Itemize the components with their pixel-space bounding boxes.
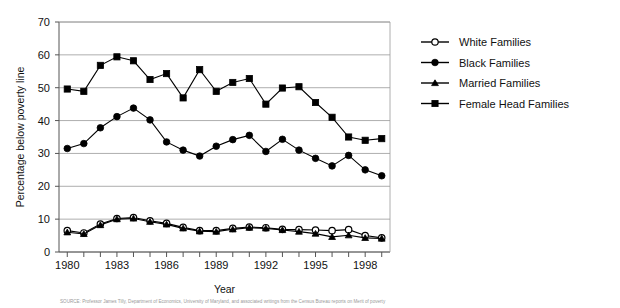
datapoint-black-families-1995 bbox=[312, 155, 319, 162]
datapoint-black-families-1987 bbox=[180, 147, 187, 154]
datapoint-female-head-families-1986 bbox=[163, 70, 169, 76]
datapoint-female-head-families-1985 bbox=[147, 76, 153, 82]
datapoint-female-head-families-1984 bbox=[130, 58, 136, 64]
datapoint-black-families-1981 bbox=[81, 140, 88, 147]
datapoint-female-head-families-1992 bbox=[263, 101, 269, 107]
datapoint-female-head-families-1995 bbox=[312, 99, 318, 105]
datapoint-female-head-families-1997 bbox=[346, 134, 352, 140]
legend-label-1: Black Families bbox=[459, 57, 530, 69]
y-tick-label-10: 10 bbox=[38, 213, 50, 225]
poverty-line-chart-figure: 0102030405060701980198319861989199219951… bbox=[0, 0, 620, 308]
x-tick-label-1992: 1992 bbox=[254, 259, 278, 271]
legend-label-0: White Families bbox=[459, 36, 532, 48]
datapoint-female-head-families-1991 bbox=[246, 75, 252, 81]
y-tick-label-30: 30 bbox=[38, 147, 50, 159]
source-caption: SOURCE: Professor James Tilly, Departmen… bbox=[60, 299, 386, 304]
y-tick-label-60: 60 bbox=[38, 49, 50, 61]
series-black-families bbox=[64, 105, 385, 179]
legend-item-female-head-families[interactable]: Female Head Families bbox=[421, 98, 570, 110]
datapoint-female-head-families-1980 bbox=[64, 86, 70, 92]
datapoint-black-families-1998 bbox=[362, 167, 369, 174]
datapoint-black-families-1999 bbox=[378, 172, 385, 179]
y-tick-label-70: 70 bbox=[38, 16, 50, 28]
datapoint-female-head-families-1999 bbox=[379, 136, 385, 142]
datapoint-black-families-1996 bbox=[329, 163, 336, 170]
y-tick-label-20: 20 bbox=[38, 180, 50, 192]
datapoint-black-families-1993 bbox=[279, 136, 286, 143]
series-line-female-head-families bbox=[67, 57, 381, 140]
datapoint-black-families-1980 bbox=[64, 145, 71, 152]
datapoint-black-families-1988 bbox=[196, 153, 203, 160]
datapoint-female-head-families-1989 bbox=[213, 88, 219, 94]
x-tick-label-1980: 1980 bbox=[55, 259, 79, 271]
datapoint-female-head-families-1988 bbox=[197, 67, 203, 73]
datapoint-black-families-1994 bbox=[296, 147, 303, 154]
datapoint-black-families-1991 bbox=[246, 132, 253, 139]
datapoint-black-families-1982 bbox=[97, 125, 104, 132]
x-tick-label-1986: 1986 bbox=[154, 259, 178, 271]
legend-marker-filled-circle bbox=[432, 59, 439, 66]
series-white-families bbox=[64, 214, 385, 241]
legend-label-3: Female Head Families bbox=[459, 98, 570, 110]
legend-item-white-families[interactable]: White Families bbox=[421, 36, 532, 48]
datapoint-black-families-1985 bbox=[147, 117, 154, 124]
datapoint-female-head-families-1982 bbox=[97, 62, 103, 68]
datapoint-black-families-1986 bbox=[163, 139, 170, 146]
datapoint-black-families-1983 bbox=[114, 113, 121, 120]
legend-marker-open-circle bbox=[432, 39, 438, 45]
datapoint-female-head-families-1981 bbox=[81, 88, 87, 94]
x-axis-title: Year bbox=[214, 283, 236, 295]
datapoint-female-head-families-1987 bbox=[180, 95, 186, 101]
datapoint-black-families-1989 bbox=[213, 143, 220, 150]
legend: White FamiliesBlack FamiliesMarried Fami… bbox=[421, 36, 570, 110]
chart-canvas: 0102030405060701980198319861989199219951… bbox=[0, 0, 620, 308]
datapoint-female-head-families-1993 bbox=[279, 85, 285, 91]
x-tick-label-1983: 1983 bbox=[105, 259, 129, 271]
series-female-head-families bbox=[64, 54, 385, 144]
datapoint-black-families-1992 bbox=[263, 148, 270, 155]
legend-marker-filled-square bbox=[432, 100, 438, 106]
datapoint-female-head-families-1998 bbox=[362, 137, 368, 143]
datapoint-female-head-families-1990 bbox=[230, 79, 236, 85]
y-axis-title: Percentage below poverty line bbox=[14, 67, 26, 208]
datapoint-black-families-1984 bbox=[130, 105, 137, 112]
datapoint-female-head-families-1996 bbox=[329, 114, 335, 120]
axes-group: 1980198319861989199219951998 bbox=[55, 22, 390, 271]
y-tick-label-0: 0 bbox=[44, 246, 50, 258]
x-tick-label-1989: 1989 bbox=[204, 259, 228, 271]
legend-item-black-families[interactable]: Black Families bbox=[421, 57, 530, 69]
datapoint-female-head-families-1983 bbox=[114, 54, 120, 60]
datapoint-black-families-1990 bbox=[229, 136, 236, 143]
datapoint-female-head-families-1994 bbox=[296, 84, 302, 90]
datapoint-black-families-1997 bbox=[345, 152, 352, 159]
datapoint-white-families-1996 bbox=[329, 227, 335, 233]
y-tick-label-50: 50 bbox=[38, 82, 50, 94]
x-tick-label-1995: 1995 bbox=[303, 259, 327, 271]
x-tick-label-1998: 1998 bbox=[353, 259, 377, 271]
legend-item-married-families[interactable]: Married Families bbox=[421, 77, 541, 89]
legend-label-2: Married Families bbox=[459, 77, 541, 89]
y-tick-label-40: 40 bbox=[38, 115, 50, 127]
